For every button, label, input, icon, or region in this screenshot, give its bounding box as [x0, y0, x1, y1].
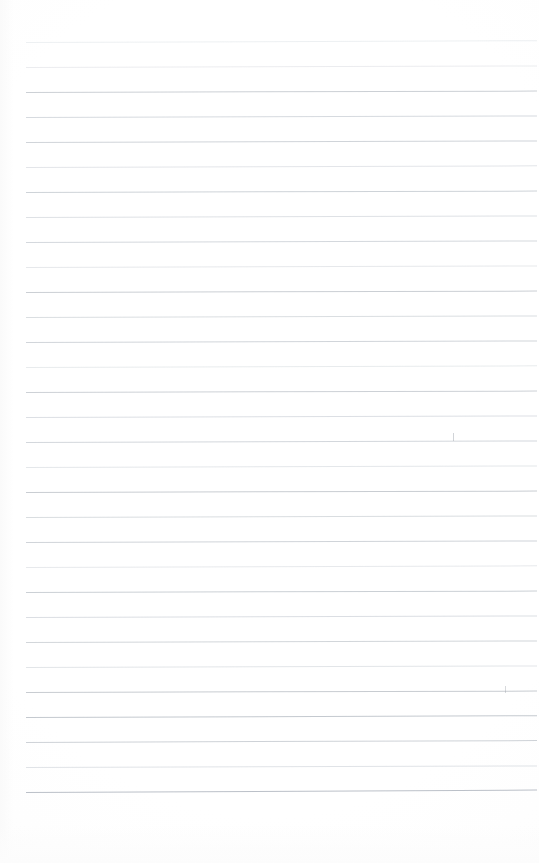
writing-surface[interactable]: [26, 30, 537, 805]
notebook-page: [0, 0, 539, 863]
